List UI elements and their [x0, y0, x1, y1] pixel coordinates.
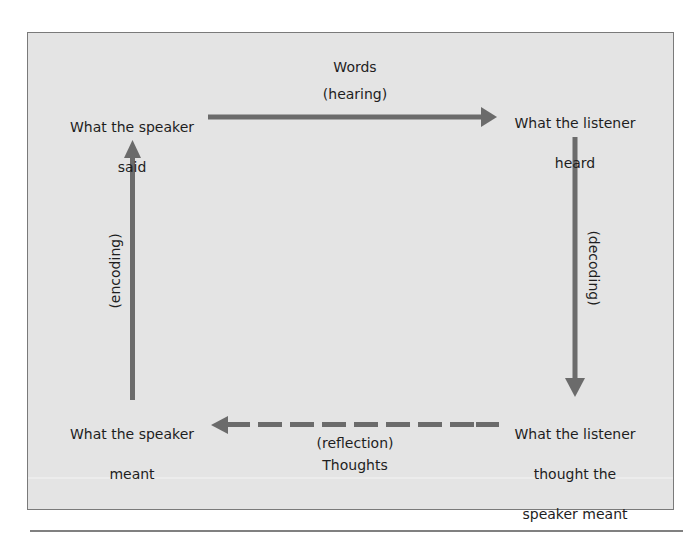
node-listener-thought-line2: thought the — [485, 464, 665, 484]
arrow-words-hearing — [208, 107, 497, 127]
edge-top-label: Words — [290, 56, 420, 78]
node-speaker-meant: What the speaker meant — [42, 404, 222, 504]
node-speaker-said: What the speaker said — [42, 97, 222, 197]
edge-bottom-sublabel: Thoughts — [290, 454, 420, 476]
edge-left-label: (encoding) — [107, 221, 123, 321]
separator-rule — [30, 530, 683, 532]
node-listener-thought-line1: What the listener — [485, 424, 665, 444]
node-listener-heard-line2: heard — [485, 153, 665, 173]
node-speaker-meant-line1: What the speaker — [42, 424, 222, 444]
edge-bottom-label: (reflection) — [290, 432, 420, 454]
node-listener-thought-line3: speaker meant — [485, 504, 665, 524]
node-listener-heard-line1: What the listener — [485, 113, 665, 133]
node-listener-heard: What the listener heard — [485, 93, 665, 193]
edge-right-label: (decoding) — [586, 218, 602, 318]
edge-top-sublabel: (hearing) — [290, 83, 420, 105]
node-speaker-said-line2: said — [42, 157, 222, 177]
node-speaker-said-line1: What the speaker — [42, 117, 222, 137]
node-listener-thought: What the listener thought the speaker me… — [485, 404, 665, 544]
node-speaker-meant-line2: meant — [42, 464, 222, 484]
